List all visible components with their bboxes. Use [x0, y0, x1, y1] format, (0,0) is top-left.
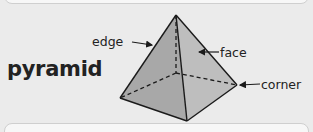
face-label: face — [220, 45, 247, 60]
corner-label: corner — [261, 77, 301, 92]
corner-arrow-icon — [240, 84, 260, 85]
pyramid-diagram — [0, 0, 313, 132]
edge-arrow-icon — [132, 42, 152, 45]
edge-label: edge — [92, 34, 123, 49]
